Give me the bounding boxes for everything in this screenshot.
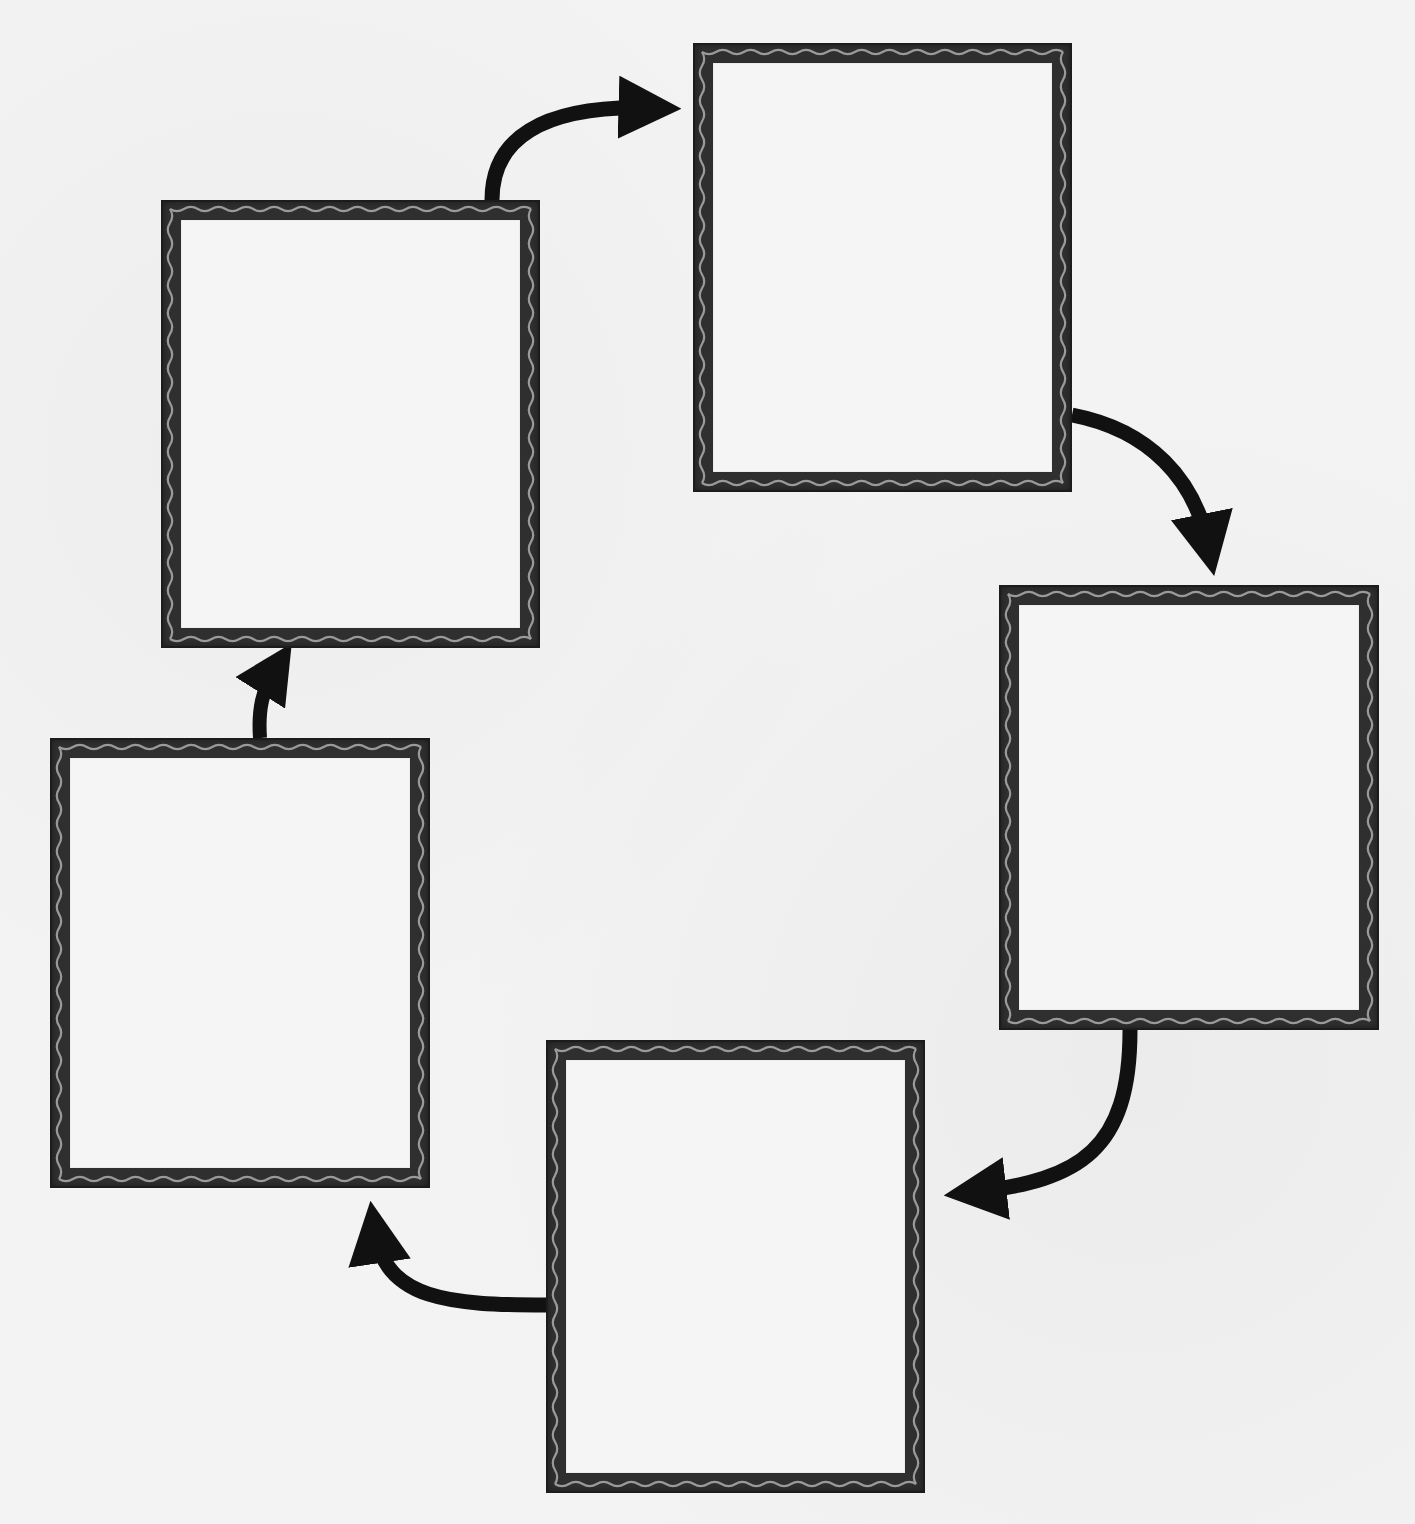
- frame-box-1: [161, 200, 540, 648]
- frame-content: [1019, 605, 1359, 1010]
- frame-content: [70, 758, 410, 1168]
- frame-box-5: [50, 738, 430, 1188]
- frame-box-2: [693, 43, 1072, 492]
- frame-content: [713, 63, 1052, 472]
- frame-content: [566, 1060, 905, 1473]
- frame-box-3: [999, 585, 1379, 1030]
- frame-content: [181, 220, 520, 628]
- frame-box-4: [546, 1040, 925, 1493]
